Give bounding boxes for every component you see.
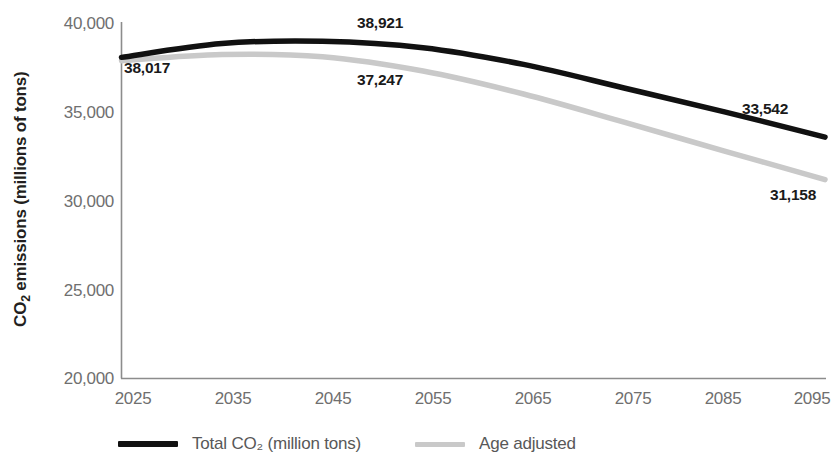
x-tick-label: 2065 xyxy=(493,389,573,409)
legend-swatch-age-adjusted xyxy=(415,442,465,447)
x-tick-label: 2085 xyxy=(683,389,763,409)
legend-label-total-co2: Total CO₂ (million tons) xyxy=(192,434,361,454)
legend-item-age-adjusted[interactable]: Age adjusted xyxy=(415,434,576,454)
data-label-start-total: 38,017 xyxy=(124,59,170,77)
series-line-age-adjusted xyxy=(122,54,826,179)
x-axis-tick-labels: 2025 2035 2045 2055 2065 2075 2085 2095 xyxy=(0,389,835,415)
x-tick-label: 2045 xyxy=(293,389,373,409)
data-label-end-age: 31,158 xyxy=(770,186,816,204)
chart-legend: Total CO₂ (million tons) Age adjusted xyxy=(0,430,835,460)
x-tick-label: 2075 xyxy=(593,389,673,409)
x-tick-label: 2025 xyxy=(93,389,173,409)
data-label-end-total: 33,542 xyxy=(742,100,788,118)
data-label-mid-age: 37,247 xyxy=(357,71,403,89)
x-tick-label: 2035 xyxy=(193,389,273,409)
data-label-peak-total: 38,921 xyxy=(357,14,403,32)
legend-label-age-adjusted: Age adjusted xyxy=(479,434,576,454)
x-tick-label: 2095 xyxy=(772,389,835,409)
x-tick-label: 2055 xyxy=(393,389,473,409)
chart-container: CO2 emissions (millions of tons) 40,000 … xyxy=(0,0,835,460)
legend-swatch-total-co2 xyxy=(118,441,178,447)
legend-item-total-co2[interactable]: Total CO₂ (million tons) xyxy=(118,434,361,454)
